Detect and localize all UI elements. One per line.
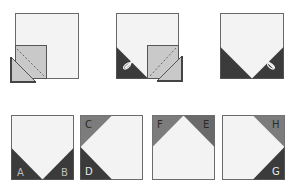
label-g: G (272, 166, 280, 177)
label-e: E (203, 119, 209, 130)
step-1-figure (11, 14, 79, 83)
quilt-corner-diagram: A B C D F E H G (0, 0, 294, 188)
step-2-figure (117, 14, 183, 82)
block-ab: A B (12, 116, 74, 180)
label-h: H (272, 119, 280, 130)
label-c: C (85, 119, 92, 130)
label-b: B (61, 167, 68, 178)
block-hg: H G (223, 116, 285, 180)
block-cd: C D (81, 116, 143, 180)
label-d: D (85, 166, 93, 177)
step-3-figure (221, 14, 284, 79)
label-a: A (17, 167, 24, 178)
label-f: F (157, 119, 163, 130)
block-fe: F E (153, 116, 215, 180)
